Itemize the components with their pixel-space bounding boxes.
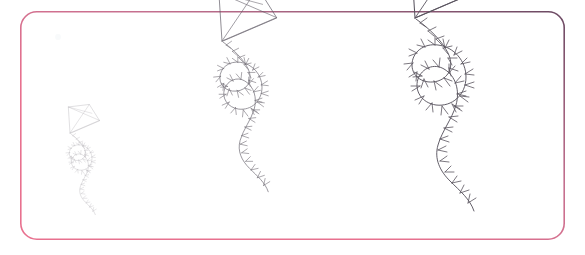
illustration-canvas: Three Kites Pencil Sketch pencil sketch … (0, 0, 585, 255)
paper-smudge (55, 34, 61, 40)
kite-medium (214, 0, 277, 192)
kite-drawing (0, 0, 585, 255)
kite-small (66, 104, 99, 214)
frame-border-stroke (21, 12, 564, 239)
kite-large (404, 0, 485, 211)
